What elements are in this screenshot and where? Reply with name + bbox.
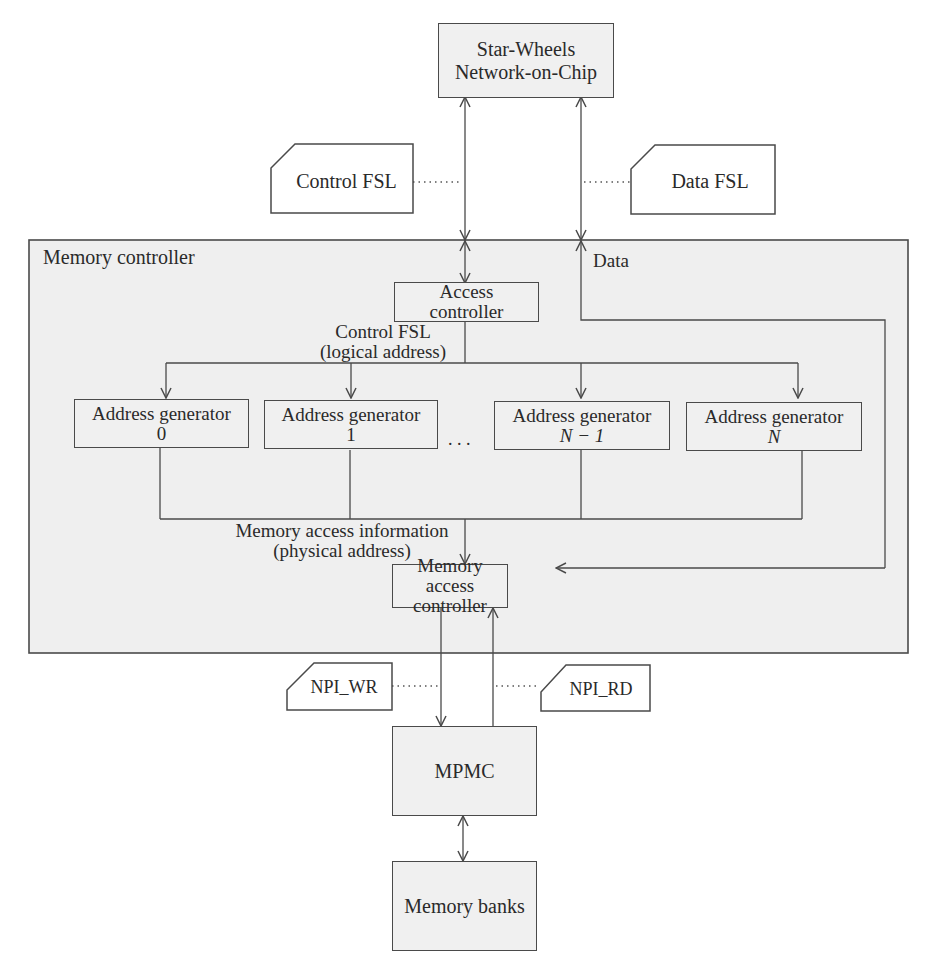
connector-layer bbox=[0, 0, 938, 974]
npi-wr-tag-label: NPI_WR bbox=[296, 665, 392, 709]
data-label: Data bbox=[593, 251, 629, 271]
control-fsl-logical-label: Control FSL (logical address) bbox=[303, 322, 463, 362]
star-wheels-noc-box: Star-Wheels Network-on-Chip bbox=[438, 23, 614, 98]
access-controller-line-2: controller bbox=[430, 302, 504, 322]
address-generator-index: N − 1 bbox=[560, 426, 605, 446]
mpmc-label: MPMC bbox=[434, 760, 494, 783]
address-generator-label: Address generator bbox=[282, 405, 421, 425]
control-fsl-tag-label: Control FSL bbox=[280, 150, 413, 212]
mem-info-line-1: Memory access information bbox=[222, 521, 462, 541]
access-controller-box: Access controller bbox=[394, 282, 539, 322]
mpmc-box: MPMC bbox=[392, 726, 537, 816]
address-generator-index: 0 bbox=[157, 424, 167, 444]
data-fsl-tag-label: Data FSL bbox=[645, 150, 775, 212]
address-generator-n-minus-1: Address generator N − 1 bbox=[494, 401, 670, 450]
mac-line-1: Memory access bbox=[393, 556, 507, 596]
mac-line-2: controller bbox=[413, 596, 487, 616]
access-controller-line-1: Access bbox=[440, 282, 494, 302]
address-generator-label: Address generator bbox=[92, 404, 231, 424]
address-generator-label: Address generator bbox=[513, 406, 652, 426]
address-generator-0: Address generator 0 bbox=[74, 399, 249, 448]
control-label-line-1: Control FSL bbox=[303, 322, 463, 342]
ellipsis: . . . bbox=[448, 430, 471, 449]
memory-controller-block-diagram: Star-Wheels Network-on-Chip Control FSL … bbox=[0, 0, 938, 974]
memory-banks-box: Memory banks bbox=[392, 861, 537, 951]
address-generator-n: Address generator N bbox=[686, 402, 862, 451]
noc-line-1: Star-Wheels bbox=[477, 38, 575, 61]
address-generator-1: Address generator 1 bbox=[264, 400, 438, 449]
address-generator-index: N bbox=[768, 427, 781, 447]
memory-access-controller-box: Memory access controller bbox=[392, 564, 508, 608]
memory-banks-label: Memory banks bbox=[404, 895, 525, 918]
npi-rd-tag-label: NPI_RD bbox=[552, 667, 650, 711]
memory-controller-title: Memory controller bbox=[43, 247, 195, 268]
address-generator-label: Address generator bbox=[705, 407, 844, 427]
control-label-line-2: (logical address) bbox=[303, 342, 463, 362]
noc-line-2: Network-on-Chip bbox=[455, 61, 597, 84]
address-generator-index: 1 bbox=[346, 425, 356, 445]
